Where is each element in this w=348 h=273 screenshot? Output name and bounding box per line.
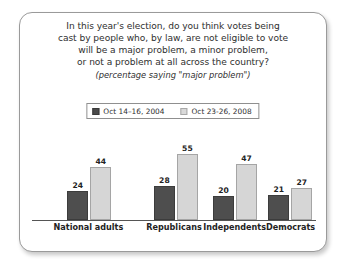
bar[interactable]	[177, 154, 198, 220]
title-line-1: In this year's election, do you think vo…	[20, 21, 326, 33]
bar[interactable]	[90, 167, 111, 220]
legend-item-2004[interactable]: Oct 14–16, 2004	[92, 107, 164, 116]
category-label-row: National adultsRepublicansIndependentsDe…	[32, 222, 316, 236]
bar-group: 2047	[205, 133, 264, 220]
bar-column[interactable]: 21	[268, 133, 289, 220]
bar-column[interactable]: 44	[90, 133, 111, 220]
screenshot-root: In this year's election, do you think vo…	[0, 0, 348, 273]
bar-column[interactable]: 28	[154, 133, 175, 220]
bar-value-label: 47	[241, 154, 252, 163]
bar-group: 2127	[265, 133, 316, 220]
bar-value-label: 55	[182, 144, 193, 153]
bar-groups: 2444285520472127	[32, 133, 316, 220]
chart-title-block: In this year's election, do you think vo…	[20, 21, 326, 81]
category-label: Democrats	[265, 222, 316, 233]
legend-item-2008[interactable]: Oct 23-26, 2008	[181, 107, 252, 116]
x-axis-line	[32, 220, 316, 221]
legend-label-2008: Oct 23-26, 2008	[192, 107, 252, 116]
bar-column[interactable]: 27	[291, 133, 312, 220]
bar-column[interactable]: 55	[177, 133, 198, 220]
legend-swatch-icon-2008	[181, 108, 188, 115]
bar[interactable]	[154, 186, 175, 220]
chart-subtitle: (percentage saying "major problem")	[20, 69, 326, 81]
category-label: Republicans	[145, 222, 203, 233]
bar-column[interactable]: 20	[213, 133, 234, 220]
legend-swatch-icon-2004	[92, 108, 99, 115]
title-line-2: cast by people who, by law, are not elig…	[20, 33, 326, 45]
bar-value-label: 44	[95, 157, 106, 166]
bar[interactable]	[67, 191, 88, 220]
chart-card: In this year's election, do you think vo…	[19, 12, 327, 252]
bar-value-label: 28	[159, 176, 170, 185]
bar[interactable]	[236, 164, 257, 220]
title-line-3: will be a major problem, a minor problem…	[20, 45, 326, 57]
bar-value-label: 27	[296, 178, 307, 187]
bar-value-label: 24	[72, 181, 83, 190]
category-label: National adults	[32, 222, 145, 233]
bar[interactable]	[213, 196, 234, 220]
bar-value-label: 20	[218, 186, 229, 195]
bar[interactable]	[291, 188, 312, 220]
bar-column[interactable]: 24	[67, 133, 88, 220]
bar-group: 2855	[146, 133, 205, 220]
chart-legend: Oct 14–16, 2004 Oct 23-26, 2008	[86, 103, 259, 119]
bar-value-label: 21	[273, 185, 284, 194]
legend-label-2004: Oct 14–16, 2004	[103, 107, 164, 116]
bar-column[interactable]: 47	[236, 133, 257, 220]
category-label: Independents	[203, 222, 265, 233]
title-line-4: or not a problem at all across the count…	[20, 57, 326, 69]
bar[interactable]	[268, 195, 289, 220]
bar-chart-plot: 2444285520472127 National adultsRepublic…	[32, 133, 316, 236]
bar-group: 2444	[32, 133, 146, 220]
